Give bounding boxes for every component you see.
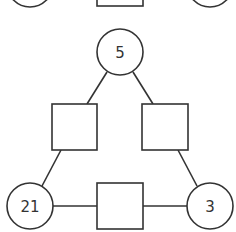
- edge-left-square-to-bottom-left-circle: [42, 150, 61, 186]
- square-node-shape: [97, 0, 143, 6]
- node-label: 21: [20, 198, 39, 216]
- triangle-puzzle-diagram: 5213: [0, 0, 236, 232]
- edge-right-square-to-bottom-right-circle: [178, 150, 197, 186]
- bottom-right-circle: 3: [187, 183, 233, 229]
- left-square: [52, 104, 97, 150]
- nodes: 5213: [7, 29, 233, 229]
- partial-left-circle: [7, 0, 53, 7]
- circle-node-shape: [7, 0, 53, 7]
- partial-middle-square: [97, 0, 143, 6]
- node-label: 3: [205, 198, 215, 216]
- edge-top-circle-to-left-square: [87, 72, 107, 104]
- partial-right-circle: [187, 0, 233, 7]
- square-node-shape: [52, 104, 97, 150]
- bottom-left-circle: 21: [7, 183, 53, 229]
- partial-top-row: [7, 0, 233, 7]
- square-node-shape: [142, 104, 188, 150]
- square-node-shape: [97, 183, 143, 229]
- right-square: [142, 104, 188, 150]
- top-circle: 5: [97, 29, 143, 75]
- circle-node-shape: [187, 0, 233, 7]
- edge-top-circle-to-right-square: [133, 72, 153, 104]
- node-label: 5: [115, 44, 125, 62]
- bottom-square: [97, 183, 143, 229]
